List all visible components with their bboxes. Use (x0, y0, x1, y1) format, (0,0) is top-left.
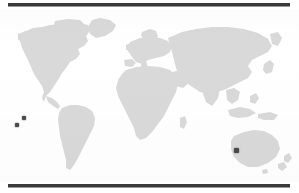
region-central-america (46, 96, 60, 109)
marker-point-1 (22, 116, 26, 120)
marker-point-3 (234, 148, 239, 153)
region-iberia (124, 59, 136, 67)
region-new-guinea (258, 112, 278, 120)
region-india (203, 84, 220, 106)
region-europe (128, 37, 172, 64)
region-philippines (250, 93, 259, 104)
top-rule (8, 3, 290, 6)
region-new-zealand-south (278, 162, 287, 171)
region-indonesia (228, 107, 256, 118)
region-africa (116, 66, 178, 140)
region-south-america (58, 105, 95, 170)
region-kamchatka (270, 32, 282, 46)
world-map-svg (0, 10, 299, 182)
region-madagascar (180, 116, 187, 129)
region-southeast-asia (226, 88, 240, 104)
marker-point-2 (15, 123, 19, 127)
region-greenland (88, 18, 116, 38)
region-japan (263, 60, 274, 74)
world-map (0, 10, 299, 182)
region-new-zealand (284, 153, 292, 163)
region-tasmania (262, 169, 268, 174)
figure-container (0, 0, 299, 193)
bottom-rule (8, 184, 290, 187)
